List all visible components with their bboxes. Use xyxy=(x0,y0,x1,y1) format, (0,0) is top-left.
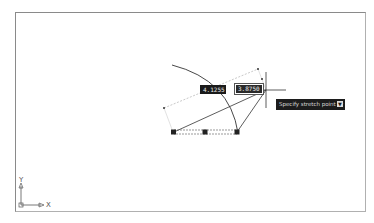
down-arrow-icon[interactable]: ▼ xyxy=(337,101,343,107)
dimension-angle-value: 3.8750 xyxy=(236,85,262,93)
grip-end[interactable] xyxy=(235,130,240,135)
dimension-length-input[interactable]: 4.1255 xyxy=(200,85,226,94)
dimension-angle-input[interactable]: 3.8750 xyxy=(234,83,264,95)
arc-geometry xyxy=(172,65,238,133)
drawing-canvas[interactable] xyxy=(0,0,374,223)
dimension-point xyxy=(261,78,263,80)
ucs-y-label: Y xyxy=(19,176,23,184)
grip-start[interactable] xyxy=(171,130,176,135)
ucs-x-label: X xyxy=(46,201,51,209)
extension-line-left xyxy=(164,108,173,132)
grip-mid[interactable] xyxy=(203,130,208,135)
dynamic-input-prompt: Specify stretch point or ▼ xyxy=(276,99,345,110)
dimension-point xyxy=(163,107,165,109)
ucs-icon xyxy=(19,183,44,207)
dimension-point xyxy=(257,68,259,70)
stretch-line xyxy=(174,90,266,132)
prompt-text: Specify stretch point or xyxy=(279,101,343,107)
